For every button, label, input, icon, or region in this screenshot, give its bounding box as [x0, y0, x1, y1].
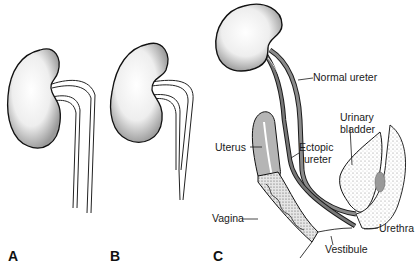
label-urinary-bladder-line2: bladder	[340, 123, 376, 135]
panel-a-diagram: A	[8, 49, 95, 264]
label-urethra: Urethra	[379, 222, 414, 234]
panel-b-diagram: B	[110, 43, 193, 264]
vagina	[258, 172, 318, 242]
kidney-b	[111, 43, 168, 142]
label-normal-ureter: Normal ureter	[313, 71, 378, 83]
panel-label-b: B	[110, 248, 120, 264]
label-ectopic-ureter-line1: Ectopic	[299, 141, 333, 153]
panel-label-a: A	[8, 248, 18, 264]
label-urinary-bladder-line1: Urinary	[340, 111, 375, 123]
panel-c-diagram: Normal ureter Urinary bladder Uterus Ect…	[212, 4, 414, 264]
ureter-anatomy-figure: A B	[0, 0, 419, 269]
label-ectopic-ureter-line2: ureter	[304, 153, 332, 165]
label-vestibule: Vestibule	[325, 243, 368, 255]
panel-label-c: C	[213, 248, 223, 264]
label-uterus: Uterus	[215, 141, 246, 153]
kidney-a	[8, 49, 61, 148]
label-vagina: Vagina	[212, 212, 244, 224]
